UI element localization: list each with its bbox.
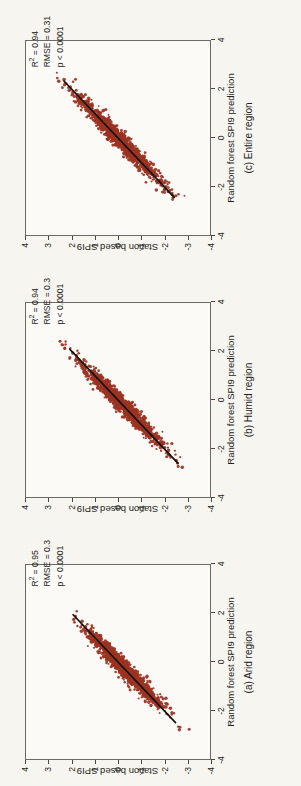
r-squared-value-a: = 0.95 — [30, 550, 40, 577]
x-tick-label: -4 — [217, 756, 226, 764]
rmse-a: RMSE = 0.3 — [41, 540, 53, 587]
y-tick-label: 4 — [21, 767, 30, 786]
y-tick-mark — [211, 498, 212, 502]
r-squared-exponent-b: 2 — [28, 315, 35, 319]
y-tick-mark — [118, 236, 119, 240]
y-tick-mark — [188, 236, 189, 240]
r-squared-label-b: R — [30, 318, 40, 324]
y-tick-label: 1 — [91, 767, 100, 786]
x-axis-title-a: Random forest SPI9 prediction — [225, 564, 236, 760]
x-tick-label: 0 — [217, 136, 226, 141]
panel-caption-a: (a) Arid region — [243, 564, 254, 760]
p-value-c: p < 0.0001 — [54, 16, 66, 67]
y-tick-mark — [141, 236, 142, 240]
y-tick-label: 3 — [44, 767, 53, 786]
x-tick-mark — [211, 137, 215, 138]
x-tick-mark — [211, 563, 215, 564]
rmse-b: RMSE = 0.3 — [41, 278, 53, 325]
y-tick-label: -1 — [137, 767, 146, 786]
x-tick-label: 2 — [217, 349, 226, 354]
y-tick-mark — [211, 760, 212, 764]
y-tick-mark — [141, 498, 142, 502]
r-squared-value-c: = 0.94 — [30, 31, 40, 58]
r-squared-exponent-c: 2 — [28, 58, 35, 62]
panel-entire-region: R2 = 0.94 RMSE = 0.31 p < 0.0001 Random … — [0, 0, 301, 262]
regression-line-c — [26, 41, 210, 235]
panel-caption-c: (c) Entire region — [243, 40, 254, 236]
y-tick-mark — [25, 236, 26, 240]
y-tick-label: 2 — [67, 767, 76, 786]
x-tick-label: 0 — [217, 660, 226, 665]
r-squared-exponent-a: 2 — [28, 577, 35, 581]
y-tick-mark — [25, 498, 26, 502]
y-tick-mark — [141, 760, 142, 764]
x-tick-label: -4 — [217, 232, 226, 240]
rmse-c: RMSE = 0.31 — [41, 16, 53, 67]
y-tick-mark — [118, 760, 119, 764]
x-axis-title-b: Random forest SPI9 prediction — [225, 302, 236, 498]
x-tick-label: -2 — [217, 183, 226, 191]
y-tick-mark — [165, 760, 166, 764]
r-squared-b: R2 = 0.94 — [27, 278, 41, 325]
y-tick-label: 0 — [114, 767, 123, 786]
panel-b-rotated-content: R2 = 0.94 RMSE = 0.3 p < 0.0001 Random f… — [19, 270, 265, 532]
panel-arid-region: R2 = 0.95 RMSE = 0.3 p < 0.0001 Random f… — [0, 524, 301, 786]
y-tick-mark — [188, 498, 189, 502]
x-tick-label: -2 — [217, 707, 226, 715]
x-tick-mark — [211, 661, 215, 662]
y-tick-mark — [118, 498, 119, 502]
plot-area-b — [25, 302, 211, 498]
panel-humid-region: R2 = 0.94 RMSE = 0.3 p < 0.0001 Random f… — [0, 262, 301, 524]
regression-line-a — [26, 565, 210, 759]
y-tick-label: -2 — [160, 767, 169, 786]
x-tick-label: 2 — [217, 87, 226, 92]
x-tick-label: -4 — [217, 494, 226, 502]
plot-area-a — [25, 564, 211, 760]
r-squared-a: R2 = 0.95 — [27, 540, 41, 587]
figure-root: R2 = 0.94 RMSE = 0.31 p < 0.0001 Random … — [0, 0, 301, 786]
y-tick-mark — [72, 498, 73, 502]
y-tick-mark — [95, 236, 96, 240]
y-tick-mark — [95, 760, 96, 764]
plot-area-c — [25, 40, 211, 236]
x-axis-title-c: Random forest SPI9 prediction — [225, 40, 236, 236]
x-tick-mark — [211, 39, 215, 40]
r-squared-c: R2 = 0.94 — [27, 16, 41, 67]
x-tick-label: 4 — [217, 300, 226, 305]
x-tick-mark — [211, 612, 215, 613]
panel-c-rotated-content: R2 = 0.94 RMSE = 0.31 p < 0.0001 Random … — [19, 8, 265, 270]
y-tick-mark — [72, 760, 73, 764]
y-tick-mark — [48, 498, 49, 502]
x-tick-mark — [211, 448, 215, 449]
panel-a-rotated-content: R2 = 0.95 RMSE = 0.3 p < 0.0001 Random f… — [19, 532, 265, 786]
x-tick-label: 0 — [217, 398, 226, 403]
y-tick-mark — [211, 236, 212, 240]
panel-caption-b: (b) Humid region — [243, 302, 254, 498]
y-tick-mark — [95, 498, 96, 502]
p-value-a: p < 0.0001 — [54, 540, 66, 587]
y-tick-label: -4 — [207, 767, 216, 786]
stats-block-c: R2 = 0.94 RMSE = 0.31 p < 0.0001 — [27, 16, 66, 67]
x-tick-label: 4 — [217, 38, 226, 43]
x-tick-mark — [211, 301, 215, 302]
x-tick-mark — [211, 88, 215, 89]
y-tick-mark — [165, 498, 166, 502]
x-tick-mark — [211, 186, 215, 187]
stats-block-a: R2 = 0.95 RMSE = 0.3 p < 0.0001 — [27, 540, 66, 587]
x-tick-mark — [211, 710, 215, 711]
p-value-b: p < 0.0001 — [54, 278, 66, 325]
regression-line-b — [26, 303, 210, 497]
y-tick-mark — [25, 760, 26, 764]
x-tick-mark — [211, 399, 215, 400]
stats-block-b: R2 = 0.94 RMSE = 0.3 p < 0.0001 — [27, 278, 66, 325]
r-squared-value-b: = 0.94 — [30, 288, 40, 315]
y-tick-mark — [72, 236, 73, 240]
x-tick-label: -2 — [217, 445, 226, 453]
y-tick-mark — [48, 760, 49, 764]
y-tick-mark — [48, 236, 49, 240]
y-tick-mark — [165, 236, 166, 240]
x-tick-label: 2 — [217, 611, 226, 616]
r-squared-label-a: R — [30, 580, 40, 586]
y-tick-mark — [188, 760, 189, 764]
r-squared-label-c: R — [30, 61, 40, 67]
